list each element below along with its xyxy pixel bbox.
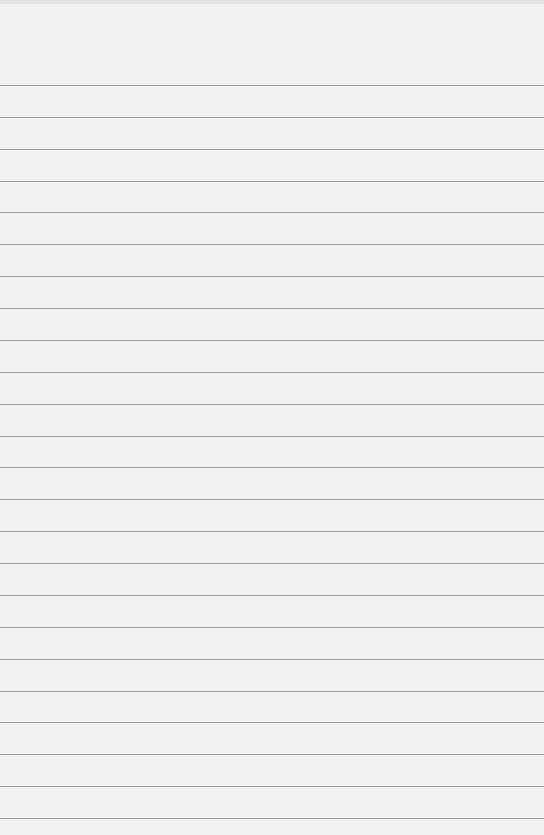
ruled-line <box>0 786 544 787</box>
ruled-line <box>0 276 544 277</box>
ruled-line <box>0 818 544 819</box>
ruled-line <box>0 754 544 755</box>
ruled-line <box>0 691 544 692</box>
ruled-line <box>0 659 544 660</box>
ruled-line <box>0 531 544 532</box>
ruled-line <box>0 149 544 150</box>
ruled-line <box>0 722 544 723</box>
ruled-line <box>0 563 544 564</box>
ruled-line <box>0 212 544 213</box>
ruled-line <box>0 340 544 341</box>
ruled-line <box>0 404 544 405</box>
ruled-line <box>0 85 544 86</box>
ruled-line <box>0 595 544 596</box>
ruled-line <box>0 181 544 182</box>
ruled-line <box>0 308 544 309</box>
ruled-line <box>0 436 544 437</box>
lined-paper-sheet <box>0 0 544 835</box>
ruled-line <box>0 117 544 118</box>
ruled-line <box>0 627 544 628</box>
top-edge <box>0 0 544 4</box>
ruled-line <box>0 244 544 245</box>
ruled-line <box>0 499 544 500</box>
ruled-line <box>0 467 544 468</box>
ruled-line <box>0 372 544 373</box>
